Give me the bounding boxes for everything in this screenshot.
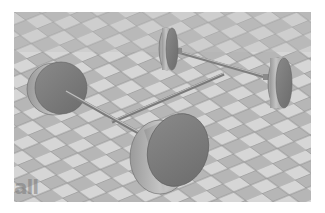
front-left-wheel <box>27 62 87 115</box>
image-frame: all <box>0 0 325 213</box>
watermark-text: all <box>14 177 38 197</box>
scene-render <box>14 12 311 202</box>
3d-viewport <box>14 12 311 202</box>
rear-left-wheel <box>159 28 178 70</box>
rear-right-wheel <box>268 58 292 108</box>
